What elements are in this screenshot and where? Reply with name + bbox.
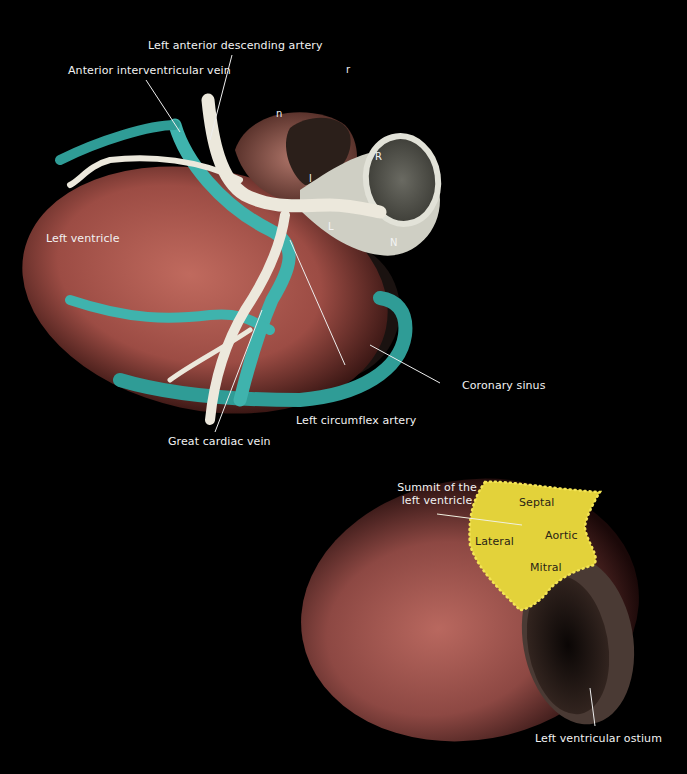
letter-n-small: n — [276, 107, 282, 120]
label-left-anterior-descending-artery: Left anterior descending artery — [148, 39, 323, 52]
vein-upper — [60, 125, 175, 160]
label-left-ventricle: Left ventricle — [46, 232, 120, 245]
label-aortic: Aortic — [545, 529, 578, 542]
label-summit-line1: Summit of the — [392, 481, 482, 494]
letter-r-small: r — [346, 63, 350, 76]
label-summit-line2: left ventricle — [392, 494, 482, 507]
label-anterior-interventricular-vein: Anterior interventricular vein — [68, 64, 231, 77]
letter-N: N — [390, 236, 398, 249]
label-septal: Septal — [519, 496, 554, 509]
anatomy-figure: Left anterior descending artery Anterior… — [0, 0, 687, 774]
label-mitral: Mitral — [530, 561, 562, 574]
heart-illustration — [0, 0, 687, 774]
label-left-ventricular-ostium: Left ventricular ostium — [535, 732, 662, 745]
letter-R: R — [375, 150, 382, 163]
label-left-circumflex-artery: Left circumflex artery — [296, 414, 416, 427]
label-coronary-sinus: Coronary sinus — [462, 379, 546, 392]
label-lateral: Lateral — [475, 535, 514, 548]
letter-L: L — [328, 220, 334, 233]
label-great-cardiac-vein: Great cardiac vein — [168, 435, 271, 448]
letter-l-small: l — [309, 172, 312, 185]
label-summit-of-left-ventricle: Summit of the left ventricle — [392, 481, 482, 507]
